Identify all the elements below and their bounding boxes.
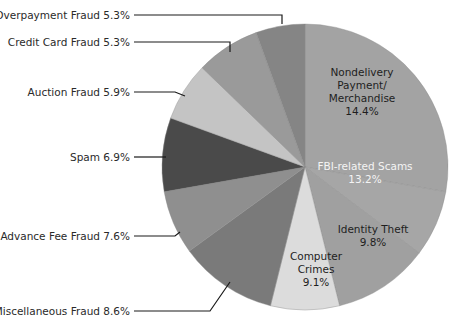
fbi-line1: FBI-related Scams xyxy=(317,160,412,172)
leader-credit-card xyxy=(134,42,230,52)
nondelivery-pct: 14.4% xyxy=(345,105,378,117)
label-credit-card-fraud: Credit Card Fraud 5.3% xyxy=(8,36,130,48)
computer-line1: Computer xyxy=(290,250,343,262)
label-auction-fraud: Auction Fraud 5.9% xyxy=(28,86,130,98)
leader-advance-fee xyxy=(134,232,180,236)
leader-auction xyxy=(134,92,185,96)
leader-overpayment xyxy=(134,15,282,24)
label-spam: Spam 6.9% xyxy=(70,151,130,163)
computer-pct: 9.1% xyxy=(303,276,330,288)
label-overpayment-fraud: Overpayment Fraud 5.3% xyxy=(0,9,130,21)
pie-chart: Overpayment Fraud 5.3% Credit Card Fraud… xyxy=(0,0,450,322)
nondelivery-line3: Merchandise xyxy=(329,92,396,104)
identity-pct: 9.8% xyxy=(360,236,387,248)
label-miscellaneous-fraud: Miscellaneous Fraud 8.6% xyxy=(0,305,130,317)
nondelivery-line1: Nondelivery xyxy=(330,66,393,78)
nondelivery-line2: Payment/ xyxy=(337,79,387,91)
fbi-pct: 13.2% xyxy=(348,173,381,185)
identity-line1: Identity Theft xyxy=(338,223,409,235)
label-advance-fee-fraud: Advance Fee Fraud 7.6% xyxy=(0,230,130,242)
computer-line2: Crimes xyxy=(298,263,335,275)
leader-misc xyxy=(134,282,230,311)
